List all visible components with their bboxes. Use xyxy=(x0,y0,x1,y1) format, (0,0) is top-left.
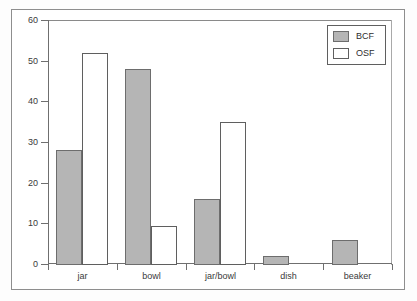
y-axis-label: 60 xyxy=(0,16,38,25)
x-axis-tick xyxy=(254,264,255,270)
y-axis-tick xyxy=(41,183,48,184)
y-axis-label: 50 xyxy=(0,57,38,66)
legend-label-osf: OSF xyxy=(356,47,375,60)
x-axis-tick xyxy=(323,264,324,270)
x-axis-label: bowl xyxy=(117,271,186,281)
y-axis-label-text: 0 xyxy=(4,260,38,269)
chart-legend: BCF OSF xyxy=(327,25,386,65)
x-axis-label: beaker xyxy=(323,271,392,281)
y-axis-label: 0 xyxy=(0,260,38,269)
figure-root: 6050403020100 jarbowljar/bowldishbeaker … xyxy=(0,0,417,301)
y-axis-label-text: 30 xyxy=(4,138,38,147)
bar-osf-bowl xyxy=(151,226,177,265)
y-axis-tick xyxy=(41,223,48,224)
bar-bcf-jar-bowl xyxy=(194,199,220,265)
y-axis-tick xyxy=(41,142,48,143)
bar-osf-jar xyxy=(82,53,108,265)
y-axis-label: 40 xyxy=(0,97,38,106)
y-axis-label-text: 20 xyxy=(4,179,38,188)
y-axis-tick xyxy=(41,101,48,102)
x-axis-label: jar/bowl xyxy=(186,271,255,281)
bar-bcf-jar xyxy=(56,150,82,265)
y-axis-label-text: 40 xyxy=(4,97,38,106)
y-axis-label: 20 xyxy=(0,179,38,188)
y-axis-label: 10 xyxy=(0,219,38,228)
x-axis-tick xyxy=(48,264,49,270)
y-axis-label-text: 50 xyxy=(4,57,38,66)
y-axis-tick xyxy=(41,61,48,62)
x-axis-label: jar xyxy=(48,271,117,281)
x-axis-tick xyxy=(392,264,393,270)
x-axis-tick xyxy=(117,264,118,270)
legend-swatch-bcf-icon xyxy=(333,31,349,42)
x-axis-tick xyxy=(186,264,187,270)
y-axis-tick xyxy=(41,20,48,21)
legend-label-bcf: BCF xyxy=(356,30,374,43)
y-axis-label-text: 10 xyxy=(4,219,38,228)
bar-osf-jar-bowl xyxy=(220,122,246,265)
y-axis-label: 30 xyxy=(0,138,38,147)
legend-swatch-osf-icon xyxy=(333,48,349,59)
bar-bcf-beaker xyxy=(332,240,358,265)
bar-bcf-dish xyxy=(263,256,289,265)
y-axis-label-text: 60 xyxy=(4,16,38,25)
y-axis-tick xyxy=(41,264,48,265)
bar-bcf-bowl xyxy=(125,69,151,265)
x-axis-label: dish xyxy=(254,271,323,281)
